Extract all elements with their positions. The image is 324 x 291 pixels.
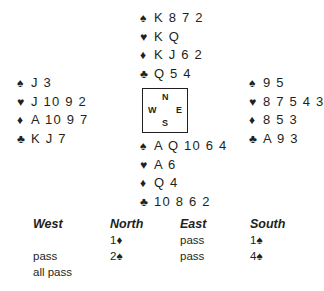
bid: 4♠ [250,248,310,264]
west-hand: ♠J 3 ♥J 10 9 2 ♦A 10 9 7 ♣K J 7 [17,74,88,148]
east-spades: ♠9 5 [249,74,324,93]
diamond-icon: ♦ [17,111,31,130]
north-clubs-cards: Q 5 4 [154,66,192,81]
diamond-icon: ♦ [249,111,263,130]
header-north: North [110,216,180,232]
bid: all pass [33,264,110,280]
bid: 1♦ [110,232,180,248]
south-hearts-cards: A 6 [154,157,176,172]
north-diamonds-cards: K J 6 2 [154,47,203,62]
compass-box: N W E S [142,88,188,133]
south-clubs-cards: 10 8 6 2 [154,194,211,209]
header-west: West [33,216,110,232]
east-hearts: ♥8 7 5 4 3 [249,93,324,112]
auction-table: West North East South 1♦ pass 1♠ pass 2♠… [33,216,310,280]
west-clubs-cards: K J 7 [31,131,67,146]
north-spades: ♠K 8 7 2 [140,9,204,28]
west-spades-cards: J 3 [31,75,52,90]
south-spades-cards: A Q 10 6 4 [154,138,227,153]
club-icon: ♣ [140,193,154,212]
diamond-icon: ♦ [140,174,154,193]
south-diamonds-cards: Q 4 [154,175,179,190]
south-hearts: ♥A 6 [140,156,227,175]
north-diamonds: ♦K J 6 2 [140,46,204,65]
compass-south: S [162,118,168,128]
east-clubs-cards: A 9 3 [263,131,299,146]
header-south: South [250,216,310,232]
north-hearts-cards: K Q [154,29,180,44]
auction-row: pass 2♠ pass 4♠ [33,248,310,264]
club-icon: ♣ [140,65,154,84]
compass-north: N [162,92,169,102]
bid: 2♠ [110,248,180,264]
bid [180,264,250,280]
north-clubs: ♣Q 5 4 [140,65,204,84]
east-hearts-cards: 8 7 5 4 3 [263,94,324,109]
diamond-icon: ♦ [140,46,154,65]
club-icon: ♣ [17,130,31,149]
north-spades-cards: K 8 7 2 [154,10,204,25]
header-east: East [180,216,250,232]
bid [110,264,180,280]
north-hearts: ♥K Q [140,28,204,47]
west-clubs: ♣K J 7 [17,130,88,149]
auction-row: 1♦ pass 1♠ [33,232,310,248]
west-diamonds-cards: A 10 9 7 [31,112,88,127]
east-diamonds-cards: 8 5 3 [263,112,298,127]
east-diamonds: ♦8 5 3 [249,111,324,130]
west-hearts-cards: J 10 9 2 [31,94,87,109]
east-hand: ♠9 5 ♥8 7 5 4 3 ♦8 5 3 ♣A 9 3 [249,74,324,148]
bid: pass [180,248,250,264]
spade-icon: ♠ [249,74,263,93]
compass-west: W [148,105,157,115]
bid: pass [180,232,250,248]
west-hearts: ♥J 10 9 2 [17,93,88,112]
east-spades-cards: 9 5 [263,75,285,90]
bid: pass [33,248,110,264]
spade-icon: ♠ [140,137,154,156]
spade-icon: ♠ [140,9,154,28]
bid [33,232,110,248]
west-spades: ♠J 3 [17,74,88,93]
south-hand: ♠A Q 10 6 4 ♥A 6 ♦Q 4 ♣10 8 6 2 [140,137,227,211]
west-diamonds: ♦A 10 9 7 [17,111,88,130]
auction-row: all pass [33,264,310,280]
spade-icon: ♠ [17,74,31,93]
heart-icon: ♥ [140,28,154,47]
heart-icon: ♥ [17,93,31,112]
heart-icon: ♥ [249,93,263,112]
north-hand: ♠K 8 7 2 ♥K Q ♦K J 6 2 ♣Q 5 4 [140,9,204,83]
east-clubs: ♣A 9 3 [249,130,324,149]
south-diamonds: ♦Q 4 [140,174,227,193]
bid: 1♠ [250,232,310,248]
auction-header: West North East South [33,216,310,232]
south-clubs: ♣10 8 6 2 [140,193,227,212]
compass-east: E [176,105,182,115]
bid [250,264,310,280]
heart-icon: ♥ [140,156,154,175]
club-icon: ♣ [249,130,263,149]
south-spades: ♠A Q 10 6 4 [140,137,227,156]
